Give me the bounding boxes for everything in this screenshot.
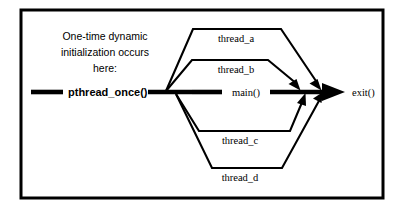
caption-line-1: One-time dynamic [62, 30, 147, 42]
thread-a-label: thread_a [218, 33, 254, 44]
caption-line-2: initialization occurs [61, 46, 149, 58]
pthread-once-label: pthread_once() [68, 86, 148, 98]
thread-c-label: thread_c [222, 135, 258, 146]
thread-d-label: thread_d [222, 172, 259, 183]
main-label: main() [232, 87, 260, 99]
pthread-once-diagram: One-time dynamic initialization occurs h… [0, 0, 403, 210]
exit-label: exit() [352, 87, 375, 99]
caption-line-3: here: [93, 62, 117, 74]
figure-canvas: One-time dynamic initialization occurs h… [0, 0, 403, 210]
thread-b-label: thread_b [218, 64, 255, 75]
